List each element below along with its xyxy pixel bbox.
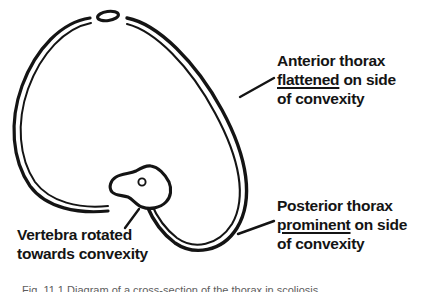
annotation-anterior-thorax: Anterior thorax flattened on side of con… xyxy=(277,51,396,108)
posterior-line-2-rest: on side xyxy=(351,216,408,233)
sternum-ellipse xyxy=(97,10,119,22)
figure-page: Anterior thorax flattened on side of con… xyxy=(0,0,436,292)
rotated-vertebra xyxy=(110,166,171,209)
annotation-posterior-thorax: Posterior thorax prominent on side of co… xyxy=(277,196,407,253)
anterior-line-2: flattened on side xyxy=(277,70,396,89)
posterior-line-3: of convexity xyxy=(277,234,407,253)
posterior-line-2: prominent on side xyxy=(277,215,407,234)
posterior-leader-line xyxy=(238,221,274,234)
spinal-canal-circle xyxy=(138,178,145,185)
anterior-line-1: Anterior thorax xyxy=(277,51,396,70)
vertebra-line-1: Vertebra rotated xyxy=(17,225,148,244)
anterior-emphasis: flattened xyxy=(277,71,339,88)
figure-caption: Fig. 11.1 Diagram of a cross-section of … xyxy=(22,284,422,292)
anterior-line-3: of convexity xyxy=(277,89,396,108)
ribcage-outline xyxy=(14,18,247,250)
anterior-leader-line xyxy=(240,78,274,97)
annotation-vertebra: Vertebra rotated towards convexity xyxy=(17,225,148,263)
posterior-line-1: Posterior thorax xyxy=(277,196,407,215)
anterior-line-2-rest: on side xyxy=(339,71,396,88)
vertebra-line-2: towards convexity xyxy=(17,244,148,263)
posterior-emphasis: prominent xyxy=(277,216,351,233)
